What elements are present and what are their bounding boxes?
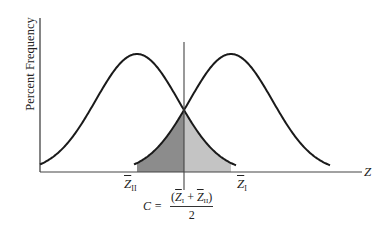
formula-fraction: (ZI + ZII) 2	[170, 190, 213, 223]
mean-subscript: I	[244, 184, 247, 193]
formula-lhs: C =	[143, 199, 162, 214]
x-axis-label: Z	[364, 164, 371, 180]
mean-label-group-II: ZII	[124, 176, 137, 193]
plus-sign: +	[184, 190, 197, 204]
y-axis-label: Percent Frequency	[23, 17, 38, 110]
formula-numerator: (ZI + ZII)	[170, 190, 213, 207]
overlap-shade-right	[184, 110, 231, 172]
mean-label-group-I: ZI	[237, 176, 247, 193]
paren-close: )	[208, 190, 212, 204]
cutoff-formula: C = (ZI + ZII) 2	[143, 190, 213, 223]
numerator-symbol-2: Z	[197, 190, 204, 204]
overlap-shade-left	[137, 110, 184, 172]
formula-denominator: 2	[189, 207, 195, 223]
numerator-symbol-1: Z	[175, 190, 182, 204]
mean-subscript: II	[131, 184, 136, 193]
